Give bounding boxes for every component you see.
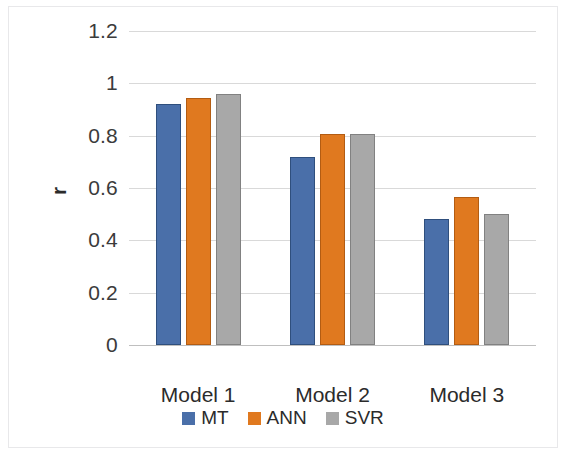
bar-ann-model-3[interactable] bbox=[454, 197, 479, 345]
axis-baseline-0: 0 bbox=[129, 345, 536, 346]
legend-label-ann: ANN bbox=[267, 407, 307, 429]
y-tick-label-0.8: 0.8 bbox=[88, 124, 118, 148]
legend-swatch-ann-icon bbox=[248, 412, 261, 425]
legend-swatch-svr-icon bbox=[326, 412, 339, 425]
legend-label-mt: MT bbox=[201, 407, 228, 429]
legend-item-svr[interactable]: SVR bbox=[326, 407, 384, 429]
bar-ann-model-2[interactable] bbox=[320, 134, 345, 345]
bar-group-model-1 bbox=[141, 31, 255, 345]
y-tick-label-0.2: 0.2 bbox=[88, 281, 118, 305]
y-tick-label-1: 1 bbox=[106, 71, 118, 95]
y-tick-label-0.6: 0.6 bbox=[88, 176, 118, 200]
y-tick-label-0: 0 bbox=[106, 333, 118, 357]
x-tick-label-model-1: Model 1 bbox=[161, 383, 236, 407]
bar-mt-model-3[interactable] bbox=[424, 219, 449, 345]
x-tick-label-model-3: Model 3 bbox=[429, 383, 504, 407]
chart-legend: MT ANN SVR bbox=[9, 407, 557, 429]
bar-ann-model-1[interactable] bbox=[186, 98, 211, 345]
bar-svr-model-3[interactable] bbox=[484, 214, 509, 345]
bar-mt-model-1[interactable] bbox=[156, 104, 181, 345]
legend-swatch-mt-icon bbox=[182, 412, 195, 425]
plot-area: 1.2 1 0.8 0.6 0.4 0.2 0 bbox=[129, 31, 536, 345]
bars-layer bbox=[129, 31, 536, 345]
bar-svr-model-2[interactable] bbox=[350, 134, 375, 345]
legend-item-ann[interactable]: ANN bbox=[248, 407, 307, 429]
x-tick-label-model-2: Model 2 bbox=[295, 383, 370, 407]
bar-svr-model-1[interactable] bbox=[216, 94, 241, 345]
y-axis-title: r bbox=[47, 187, 71, 195]
chart-frame: r 1.2 1 0.8 0.6 0.4 0.2 0 bbox=[8, 6, 558, 448]
y-tick-label-0.4: 0.4 bbox=[88, 228, 118, 252]
bar-group-model-2 bbox=[276, 31, 390, 345]
legend-item-mt[interactable]: MT bbox=[182, 407, 228, 429]
bar-group-model-3 bbox=[410, 31, 524, 345]
y-tick-label-1.2: 1.2 bbox=[88, 19, 118, 43]
bar-mt-model-2[interactable] bbox=[290, 157, 315, 345]
legend-label-svr: SVR bbox=[345, 407, 384, 429]
